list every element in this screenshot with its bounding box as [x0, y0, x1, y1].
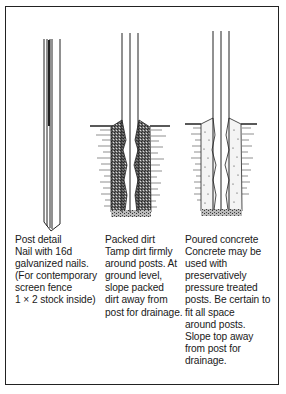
- caption-title: Poured concrete: [185, 234, 270, 246]
- caption-title: Packed dirt: [105, 234, 183, 246]
- post-detail-drawing: [44, 39, 60, 231]
- caption-line: dirt away from: [105, 294, 183, 306]
- post-detail-caption: Post detail Nail with 16d galvanized nai…: [15, 234, 97, 307]
- poured-concrete-caption: Poured concrete Concrete may be used wit…: [185, 234, 270, 367]
- caption-line: post for drainage.: [105, 307, 183, 319]
- packed-dirt-drawing: [90, 33, 170, 217]
- caption-line: Slope top away: [185, 331, 270, 343]
- caption-line: Tamp dirt firmly: [105, 246, 183, 258]
- post-installation-illustrations: [0, 0, 286, 240]
- caption-line: ground level,: [105, 270, 183, 282]
- caption-line: screen fence: [15, 282, 97, 294]
- caption-line: posts. Be certain to: [185, 294, 270, 306]
- caption-line: around posts. At: [105, 258, 183, 270]
- caption-line: preservatively: [185, 270, 270, 282]
- caption-line: from post for: [185, 343, 270, 355]
- caption-line: 1 × 2 stock inside): [15, 294, 97, 306]
- caption-line: around posts.: [185, 319, 270, 331]
- caption-line: drainage.: [185, 355, 270, 367]
- caption-line: slope packed: [105, 282, 183, 294]
- caption-line: (For contemporary: [15, 270, 97, 282]
- caption-line: pressure treated: [185, 282, 270, 294]
- caption-title: Post detail: [15, 234, 97, 246]
- caption-line: galvanized nails.: [15, 258, 97, 270]
- caption-line: Nail with 16d: [15, 246, 97, 258]
- caption-line: used with: [185, 258, 270, 270]
- caption-line: fit all space: [185, 307, 270, 319]
- poured-concrete-drawing: [185, 31, 257, 216]
- packed-dirt-caption: Packed dirt Tamp dirt firmly around post…: [105, 234, 183, 319]
- caption-line: Concrete may be: [185, 246, 270, 258]
